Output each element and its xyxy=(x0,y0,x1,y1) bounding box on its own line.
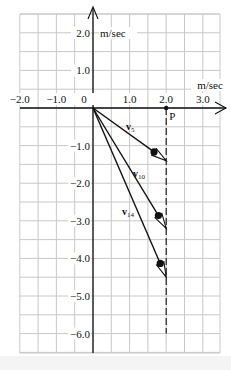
velocity-plot: −2.0−1.001.02.03.02.01.0−1.0−2.0−3.0−4.0… xyxy=(0,0,231,370)
x-tick-label: 3.0 xyxy=(196,93,210,105)
y-tick-label: −3.0 xyxy=(70,215,90,227)
axes xyxy=(20,7,226,353)
vector-label-v14: v14 xyxy=(122,206,135,219)
point-p-label: P xyxy=(169,110,175,122)
y-unit-label: m/sec xyxy=(100,27,126,39)
grid xyxy=(20,14,220,353)
y-tick-label: −4.0 xyxy=(70,252,90,264)
y-tick-label: −6.0 xyxy=(70,328,90,340)
y-tick-label: 1.0 xyxy=(76,64,90,76)
vector-dot xyxy=(157,260,164,267)
y-tick-label: 2.0 xyxy=(76,27,90,39)
x-tick-label: 1.0 xyxy=(123,93,137,105)
y-tick-label: −2.0 xyxy=(70,177,90,189)
bottom-band xyxy=(0,356,231,370)
x-tick-label: 0 xyxy=(81,93,87,105)
vector-dot xyxy=(150,148,157,155)
y-tick-label: −1.0 xyxy=(70,140,90,152)
x-tick-label: −2.0 xyxy=(10,93,30,105)
x-tick-label: 2.0 xyxy=(159,93,173,105)
vector-label-v10: v10 xyxy=(133,168,146,181)
point-p-marker xyxy=(164,106,168,110)
velocity-diagram: −2.0−1.001.02.03.02.01.0−1.0−2.0−3.0−4.0… xyxy=(0,0,231,370)
vector-dot xyxy=(155,212,162,219)
x-unit-label: m/sec xyxy=(197,79,223,91)
x-tick-label: −1.0 xyxy=(46,93,66,105)
y-tick-label: −5.0 xyxy=(70,290,90,302)
